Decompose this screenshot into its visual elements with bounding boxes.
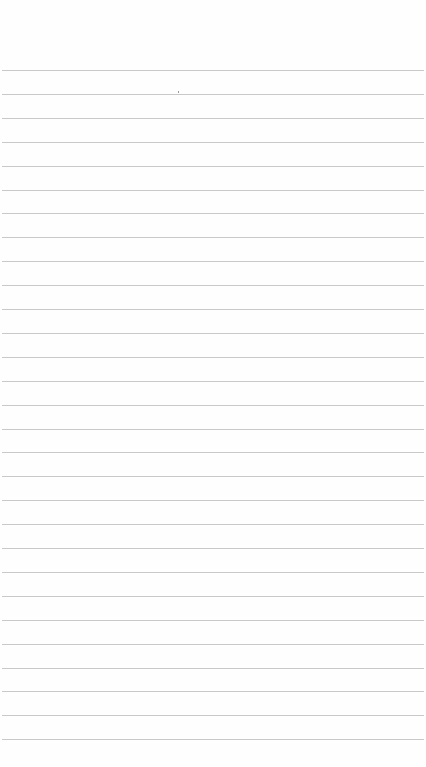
notes-text-area[interactable] [0, 48, 426, 748]
notepad-page[interactable] [0, 0, 426, 767]
